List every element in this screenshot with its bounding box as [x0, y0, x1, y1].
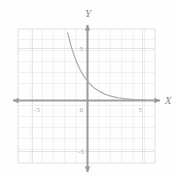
x-tick-label-negative-five: -5 [34, 106, 40, 114]
graph-figure: -5 5 5 -5 0 X Y [0, 0, 178, 179]
x-axis-label: X [164, 94, 173, 106]
coordinate-plane-svg: -5 5 5 -5 0 X Y [0, 0, 178, 179]
y-tick-label-negative-five: -5 [78, 148, 84, 156]
origin-label: 0 [80, 106, 84, 114]
y-axis-label: Y [85, 7, 93, 19]
plot-background [18, 29, 155, 163]
x-tick-label-positive-five: 5 [138, 106, 142, 114]
y-tick-label-positive-five: 5 [80, 45, 84, 53]
